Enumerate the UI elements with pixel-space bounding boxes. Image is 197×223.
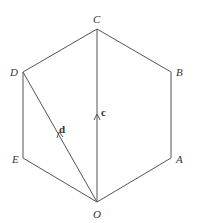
- label-C: C: [93, 13, 101, 25]
- label-A: A: [175, 153, 183, 165]
- label-E: E: [11, 153, 19, 165]
- label-O: O: [93, 208, 101, 220]
- label-D: D: [9, 66, 18, 78]
- label-B: B: [176, 66, 183, 78]
- label-vector-d: d: [59, 123, 65, 135]
- vector-d-line: [23, 72, 97, 202]
- label-vector-c: c: [101, 106, 106, 118]
- hexagon-diagram: C D B E A O c d: [0, 0, 197, 223]
